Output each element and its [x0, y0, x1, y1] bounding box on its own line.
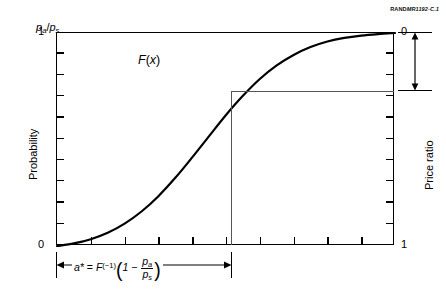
a-star-fraction: paps — [141, 256, 153, 281]
left-axis-title: Probability — [27, 129, 39, 180]
cdf-figure: F(x) 1 0 0 1 Probability Price ratio pa/… — [0, 0, 446, 292]
guide-line-vertical — [231, 91, 232, 245]
right-axis-title: Price ratio — [423, 140, 435, 190]
a-star-close-paren: ) — [154, 259, 160, 281]
right-axis-min-label: 1 — [401, 239, 407, 250]
cdf-curve — [57, 33, 395, 246]
price-ratio-formula: pa/ps — [36, 21, 59, 35]
curve-label: F(x) — [138, 53, 160, 67]
a-star-symbol: a* — [74, 261, 84, 273]
curve-label-F: F — [138, 53, 146, 67]
left-axis-min-label: 0 — [38, 239, 44, 250]
a-star-inverse-exponent: (−1) — [102, 261, 116, 270]
plot-area — [56, 32, 394, 245]
a-star-num-sub: a — [148, 260, 152, 269]
a-star-fraction-denominator: ps — [141, 269, 153, 281]
a-star-equals: = — [84, 261, 96, 273]
curve-label-arg: (x) — [146, 53, 161, 67]
guide-line-horizontal — [232, 91, 394, 92]
price-ratio-span-annotation — [398, 32, 432, 91]
double-arrow-vertical-icon — [398, 32, 432, 91]
a-star-minus: − — [128, 261, 140, 273]
price-ratio-sub-s: s — [56, 26, 60, 35]
a-star-den-sub: s — [148, 273, 152, 282]
a-star-formula: a* = F(−1)(1 − paps) — [72, 256, 163, 281]
